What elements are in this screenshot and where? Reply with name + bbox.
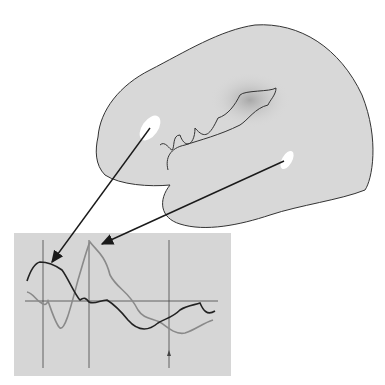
figure-canvas xyxy=(0,0,385,385)
waveform-inset xyxy=(14,233,231,376)
brain-outline xyxy=(96,25,373,228)
brain xyxy=(96,25,373,228)
dark-region xyxy=(210,72,290,128)
